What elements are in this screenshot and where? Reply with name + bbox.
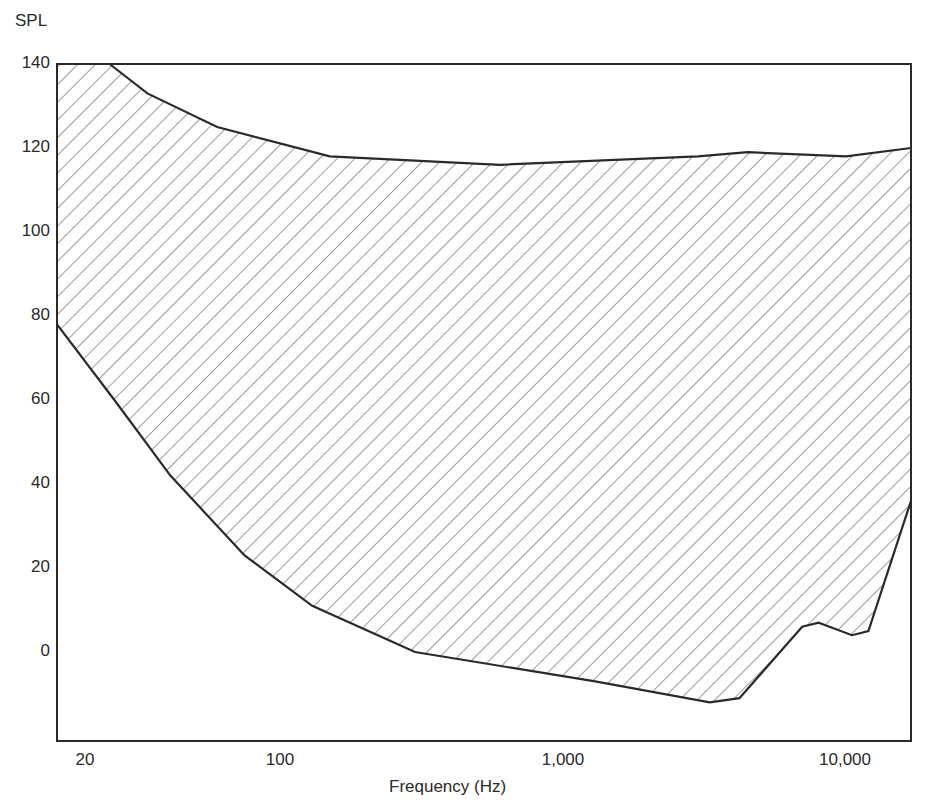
- y-tick-label: 20: [4, 557, 50, 577]
- x-axis-title: Frequency (Hz): [389, 777, 506, 797]
- y-axis-title: SPL: [15, 11, 47, 31]
- y-tick-label: 100: [4, 221, 50, 241]
- plot-area: [57, 64, 911, 741]
- x-tick-label: 20: [35, 750, 135, 770]
- y-tick-label: 40: [4, 473, 50, 493]
- audible-region-hatched: [57, 64, 911, 702]
- x-tick-label: 100: [230, 750, 330, 770]
- chart-canvas: [0, 0, 925, 805]
- y-tick-label: 0: [4, 641, 50, 661]
- y-tick-label: 120: [4, 137, 50, 157]
- x-tick-label: 10,000: [795, 750, 895, 770]
- y-tick-label: 140: [4, 53, 50, 73]
- y-tick-label: 60: [4, 389, 50, 409]
- x-tick-label: 1,000: [513, 750, 613, 770]
- y-tick-label: 80: [4, 305, 50, 325]
